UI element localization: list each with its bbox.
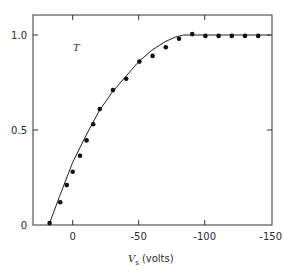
data-point — [190, 32, 195, 37]
plot-frame — [33, 15, 272, 225]
data-point — [177, 37, 182, 42]
x-tick-label: -150 — [259, 231, 282, 242]
data-point — [65, 183, 70, 188]
y-axis-ticks: 00.51.0 — [11, 30, 272, 231]
data-point — [150, 54, 155, 59]
data-point — [111, 88, 116, 93]
data-point — [243, 34, 248, 39]
data-point — [230, 34, 235, 39]
data-point — [216, 34, 221, 39]
data-point — [47, 221, 52, 226]
chart: 0-50-100-150 00.51.0 T Vs(volts) — [0, 0, 294, 280]
data-points — [47, 32, 260, 226]
data-point — [124, 76, 129, 81]
y-tick-label: 0 — [21, 220, 27, 231]
y-tick-label: 1.0 — [11, 30, 27, 41]
x-axis-label: Vs(volts) — [128, 253, 174, 267]
x-label-subscript: s — [135, 259, 139, 267]
theory-curve — [49, 35, 271, 225]
x-label-unit: (volts) — [142, 253, 174, 264]
data-point — [84, 138, 89, 143]
data-point — [256, 34, 261, 39]
data-point — [70, 170, 75, 175]
annotation-T: T — [73, 42, 81, 53]
data-point — [164, 45, 169, 50]
data-point — [91, 122, 96, 127]
x-axis-ticks: 0-50-100-150 — [70, 15, 283, 242]
data-point — [58, 200, 63, 205]
y-tick-label: 0.5 — [11, 125, 27, 136]
x-tick-label: -100 — [193, 231, 216, 242]
data-point — [78, 153, 83, 158]
data-point — [137, 59, 142, 64]
data-point — [203, 34, 208, 39]
x-tick-label: 0 — [70, 231, 76, 242]
x-tick-label: -50 — [131, 231, 147, 242]
data-point — [98, 107, 103, 112]
